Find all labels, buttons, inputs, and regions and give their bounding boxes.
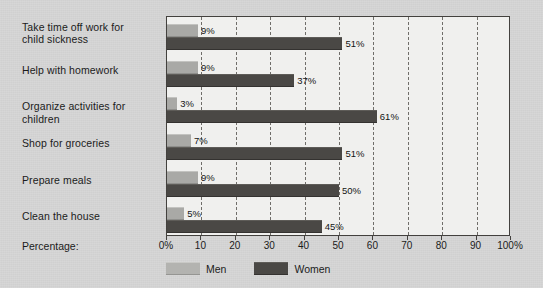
plot-area: 9%51%9%37%3%61%7%51%9%50%5%45%	[166, 16, 510, 236]
bar-value-label-women-2: 61%	[380, 111, 399, 122]
legend-swatch-men	[166, 262, 200, 275]
bar-women-1	[167, 74, 294, 87]
x-tick-label-30: 30	[264, 240, 275, 251]
bar-value-label-women-3: 51%	[345, 148, 364, 159]
category-label-0: Take time off work forchild sickness	[22, 21, 164, 46]
legend-label-men: Men	[206, 263, 226, 275]
x-tick-label-80: 80	[436, 240, 447, 251]
category-label-4: Prepare meals	[22, 174, 164, 187]
x-tick-label-100: 100%	[497, 240, 523, 251]
x-tick-label-40: 40	[298, 240, 309, 251]
bar-men-4	[167, 171, 198, 184]
gridline-90	[477, 17, 478, 235]
bar-men-3	[167, 134, 191, 147]
category-label-line: Take time off work for	[22, 21, 164, 34]
bar-men-0	[167, 24, 198, 37]
bar-value-label-women-4: 50%	[342, 185, 361, 196]
bar-women-2	[167, 110, 377, 123]
x-tick-label-10: 10	[195, 240, 206, 251]
bar-women-4	[167, 184, 339, 197]
bar-women-3	[167, 147, 342, 160]
bar-value-label-men-1: 9%	[201, 62, 215, 73]
legend-item-women: Women	[254, 262, 330, 275]
bar-men-1	[167, 61, 198, 74]
category-label-line: Clean the house	[22, 210, 164, 223]
bar-men-5	[167, 207, 184, 220]
bar-value-label-women-5: 45%	[325, 221, 344, 232]
bar-men-2	[167, 97, 177, 110]
gridline-80	[442, 17, 443, 235]
x-tick-label-90: 90	[470, 240, 481, 251]
bar-women-5	[167, 220, 322, 233]
x-tick-label-0: 0%	[159, 240, 173, 251]
legend-swatch-women	[254, 262, 288, 275]
legend-label-women: Women	[294, 263, 330, 275]
grouped-bar-chart: Take time off work forchild sicknessHelp…	[0, 0, 543, 288]
chart-legend: MenWomen	[166, 262, 352, 275]
bar-value-label-men-4: 9%	[201, 172, 215, 183]
category-label-line: child sickness	[22, 33, 164, 46]
bar-value-label-women-1: 37%	[297, 75, 316, 86]
category-label-5: Clean the house	[22, 210, 164, 223]
bar-value-label-men-2: 3%	[180, 98, 194, 109]
bar-value-label-men-5: 5%	[187, 208, 201, 219]
gridline-60	[373, 17, 374, 235]
category-label-2: Organize activities for children	[22, 100, 164, 125]
category-label-1: Help with homework	[22, 64, 164, 77]
bar-women-0	[167, 37, 342, 50]
bar-value-label-men-0: 9%	[201, 25, 215, 36]
axis-caption: Percentage:	[22, 240, 79, 252]
bar-value-label-men-3: 7%	[194, 135, 208, 146]
bar-value-label-women-0: 51%	[345, 38, 364, 49]
category-label-line: Prepare meals	[22, 174, 164, 187]
x-tick-label-50: 50	[332, 240, 343, 251]
x-tick-label-60: 60	[367, 240, 378, 251]
legend-item-men: Men	[166, 262, 226, 275]
category-label-line: Help with homework	[22, 64, 164, 77]
category-label-3: Shop for groceries	[22, 137, 164, 150]
gridline-70	[408, 17, 409, 235]
x-tick-label-20: 20	[229, 240, 240, 251]
category-label-line: Organize activities for children	[22, 100, 164, 125]
category-label-line: Shop for groceries	[22, 137, 164, 150]
x-tick-label-70: 70	[401, 240, 412, 251]
